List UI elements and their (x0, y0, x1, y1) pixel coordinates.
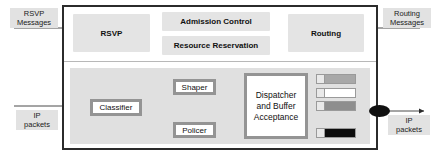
plane-divider (64, 61, 376, 62)
label-ip-packets-out: IP packets (388, 115, 430, 135)
data-block-dispatcher-label-line2: and Buffer (256, 101, 295, 112)
control-block-routing-label: Routing (311, 29, 341, 38)
control-block-rsvp[interactable]: RSVP (73, 14, 150, 52)
data-block-policer[interactable]: Policer (173, 122, 216, 138)
queue-3-body (324, 101, 356, 111)
label-routing-messages: Routing Messages (383, 8, 431, 28)
queue-4-body (324, 128, 356, 138)
queue-3 (316, 101, 356, 111)
label-ip-packets-in: IP packets (16, 110, 58, 130)
label-routing-messages-line1: Routing (394, 9, 420, 18)
label-rsvp-messages-line2: Messages (17, 18, 51, 27)
control-block-admission-control[interactable]: Admission Control (162, 12, 270, 31)
label-routing-messages-line2: Messages (390, 18, 424, 27)
label-ip-packets-in-line1: IP (33, 111, 40, 120)
queue-3-head (316, 101, 324, 111)
control-block-admission-control-label: Admission Control (180, 17, 252, 26)
control-block-routing[interactable]: Routing (288, 14, 364, 52)
control-block-resource-reservation[interactable]: Resource Reservation (162, 36, 270, 55)
control-block-resource-reservation-label: Resource Reservation (174, 41, 258, 50)
queue-1-body (324, 74, 356, 84)
scheduler-node[interactable] (369, 105, 390, 117)
label-ip-packets-out-line1: IP (405, 116, 412, 125)
data-block-dispatcher[interactable]: Dispatcher and Buffer Acceptance (244, 73, 308, 139)
label-ip-packets-out-line2: packets (396, 125, 422, 134)
data-block-shaper-label: Shaper (182, 83, 208, 92)
queue-2-head (316, 88, 324, 98)
queue-1-head (316, 74, 324, 84)
data-block-policer-label: Policer (182, 126, 206, 135)
queue-2 (316, 88, 356, 98)
label-ip-packets-in-line2: packets (24, 120, 50, 129)
queue-4-head (316, 128, 324, 138)
data-block-classifier[interactable]: Classifier (90, 99, 142, 116)
data-block-shaper[interactable]: Shaper (173, 79, 216, 95)
queue-4 (316, 128, 356, 138)
label-rsvp-messages-line1: RSVP (24, 9, 44, 18)
data-block-dispatcher-label-line1: Dispatcher (256, 90, 297, 101)
label-rsvp-messages: RSVP Messages (10, 8, 58, 28)
control-block-rsvp-label: RSVP (101, 29, 123, 38)
data-block-dispatcher-label-line3: Acceptance (254, 112, 298, 123)
queue-1 (316, 74, 356, 84)
data-block-classifier-label: Classifier (100, 103, 133, 112)
queue-2-body (324, 88, 356, 98)
diagram-canvas: RSVP Admission Control Resource Reservat… (0, 0, 435, 160)
